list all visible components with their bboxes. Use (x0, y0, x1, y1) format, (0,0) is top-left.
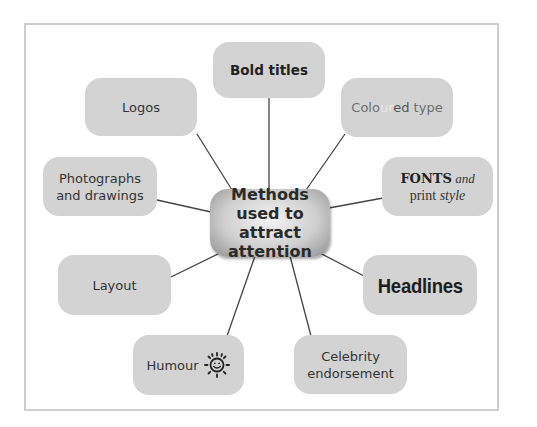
central-line3: attention (228, 242, 312, 261)
photographs-line1: Photographs (59, 170, 141, 187)
node-photographs-drawings: Photographs and drawings (43, 157, 157, 216)
photographs-line2: and drawings (56, 187, 144, 204)
logos-label: Logos (122, 99, 160, 116)
fonts-line1: FONTS and (400, 170, 474, 187)
node-bold-titles: Bold titles (213, 42, 325, 98)
connector-fonts (329, 198, 383, 208)
connector-photographs (157, 200, 211, 212)
connector-humour (227, 256, 255, 336)
node-fonts-print-style: FONTS and print style (382, 157, 493, 216)
layout-label: Layout (92, 277, 136, 294)
connector-layout (171, 252, 222, 277)
bold-titles-label: Bold titles (230, 62, 308, 79)
celebrity-line1: Celebrity (321, 348, 380, 365)
connector-headlines (318, 252, 364, 276)
connector-logos (197, 134, 232, 190)
connector-celebrity (290, 256, 311, 336)
smiling-sun-icon (203, 351, 231, 379)
coloured-type-label: Coloured type (351, 99, 442, 116)
fonts-line2: print style (410, 187, 466, 204)
node-humour: Humour (133, 335, 244, 395)
connector-coloured-type (306, 134, 345, 190)
central-line2: used to attract (210, 204, 330, 242)
headlines-label: Headlines (378, 277, 463, 294)
central-line1: Methods (231, 185, 309, 204)
central-topic: Methods used to attract attention (210, 189, 330, 257)
celebrity-line2: endorsement (307, 365, 394, 382)
node-coloured-type: Coloured type (341, 78, 453, 137)
humour-label: Humour (146, 357, 198, 374)
node-logos: Logos (85, 78, 197, 136)
node-headlines: Headlines (363, 255, 477, 315)
node-celebrity-endorsement: Celebrity endorsement (294, 335, 407, 394)
node-layout: Layout (58, 255, 171, 315)
